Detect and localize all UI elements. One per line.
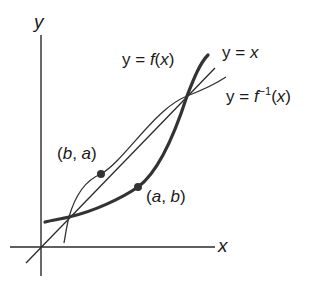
coord-first: a (152, 187, 161, 206)
point-b-a-label: (b, a) (57, 145, 97, 162)
point-a-b-dot (134, 183, 142, 191)
point-b-a-dot (97, 170, 105, 178)
coord-second: a (82, 144, 91, 163)
inverse-function-diagram: y x y = f(x) y = x y = f−1(x) (b, a) (a,… (0, 0, 330, 291)
y-axis-label: y (34, 12, 44, 31)
f-curve-label: y = f(x) (122, 51, 174, 68)
coord-sep: , (72, 144, 81, 163)
f-inverse-label-prefix: y = (226, 87, 254, 106)
f-label-arg: (x) (155, 50, 175, 69)
identity-line-label: y = x (222, 44, 258, 61)
coord-first: b (63, 144, 72, 163)
identity-label-var: x (250, 43, 259, 62)
coord-sep: , (161, 187, 170, 206)
f-label-prefix: y = (122, 50, 150, 69)
f-inverse-label-sup: −1 (259, 85, 272, 97)
identity-label-prefix: y = (222, 43, 250, 62)
point-a-b-label: (a, b) (146, 188, 186, 205)
coord-second: b (171, 187, 180, 206)
f-inverse-label-arg: (x) (271, 87, 291, 106)
f-inverse-curve-label: y = f−1(x) (226, 86, 291, 105)
x-axis-label: x (218, 236, 228, 255)
paren-close: ) (91, 144, 97, 163)
diagram-graphics (0, 0, 330, 291)
paren-close: ) (180, 187, 186, 206)
